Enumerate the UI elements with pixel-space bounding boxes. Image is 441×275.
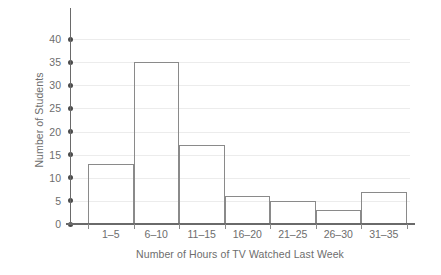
y-tick-label: 20 <box>37 126 61 138</box>
x-tick-mark <box>270 224 271 229</box>
x-tick-mark <box>361 224 362 229</box>
x-tick-mark <box>225 224 226 229</box>
x-axis-line <box>66 223 415 224</box>
x-tick-mark <box>316 224 317 229</box>
plot-area: 0510152025303540 1–56–1011–1516–2021–252… <box>70 16 410 224</box>
gridline <box>70 39 410 40</box>
histogram-figure: Number of Students 0510152025303540 1–56… <box>0 0 441 275</box>
y-tick-label: 30 <box>37 79 61 91</box>
x-axis-title: Number of Hours of TV Watched Last Week <box>70 248 410 260</box>
x-tick-label: 6–10 <box>145 228 168 240</box>
y-tick-label: 5 <box>37 195 61 207</box>
histogram-bar <box>134 62 180 224</box>
gridline <box>70 108 410 109</box>
y-tick-label: 0 <box>37 218 61 230</box>
x-tick-label: 11–15 <box>188 228 216 240</box>
x-tick-mark <box>179 224 180 229</box>
x-tick-label: 31–35 <box>369 228 398 240</box>
y-tick-label: 15 <box>37 149 61 161</box>
x-tick-mark <box>134 224 135 229</box>
gridline <box>70 85 410 86</box>
gridline <box>70 155 410 156</box>
y-tick-label: 40 <box>37 33 61 45</box>
histogram-bar <box>361 192 407 224</box>
x-tick-label: 21–25 <box>278 228 307 240</box>
histogram-bar <box>179 145 225 224</box>
x-tick-mark <box>88 224 89 229</box>
y-tick-label: 10 <box>37 172 61 184</box>
gridline <box>70 62 410 63</box>
histogram-bar <box>270 201 316 224</box>
gridline <box>70 132 410 133</box>
x-tick-mark <box>407 224 408 229</box>
histogram-bar <box>316 210 362 224</box>
x-tick-label: 1–5 <box>102 228 120 240</box>
histogram-bar <box>88 164 134 224</box>
y-tick-label: 25 <box>37 102 61 114</box>
x-tick-label: 16–20 <box>233 228 262 240</box>
y-tick-label: 35 <box>37 56 61 68</box>
y-axis-line <box>70 8 72 224</box>
x-tick-label: 26–30 <box>324 228 353 240</box>
histogram-bar <box>225 196 271 224</box>
